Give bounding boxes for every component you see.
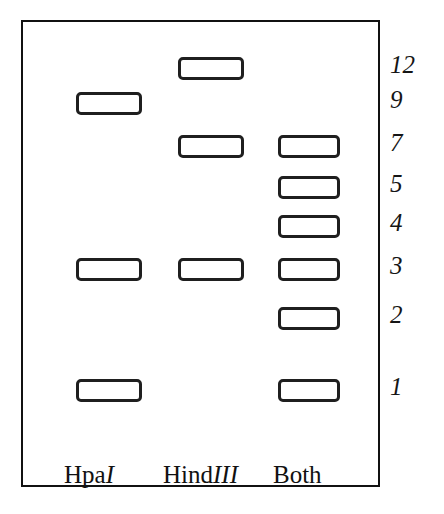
dna-band: [178, 258, 244, 281]
enzyme-name: Both: [273, 461, 322, 488]
enzyme-name: Hpa: [64, 461, 106, 488]
size-marker-label: 9: [390, 87, 434, 113]
enzyme-name: Hind: [163, 461, 213, 488]
dna-band: [76, 92, 142, 115]
dna-band: [278, 307, 340, 330]
size-marker-label: 1: [390, 374, 434, 400]
lane-label-both: Both: [273, 459, 322, 491]
dna-band: [278, 215, 340, 238]
size-marker-ladder: 129754321: [390, 20, 444, 487]
gel-box: HpaIHindIIIBoth: [21, 20, 380, 487]
size-marker-label: 2: [390, 302, 434, 328]
lane-label-hind: HindIII: [163, 459, 238, 491]
dna-band: [178, 135, 244, 158]
dna-band: [76, 258, 142, 281]
enzyme-numeral: I: [106, 461, 114, 488]
dna-band: [76, 379, 142, 402]
enzyme-numeral: III: [213, 461, 238, 488]
dna-band: [278, 258, 340, 281]
lane-label-row: HpaIHindIIIBoth: [23, 459, 382, 493]
size-marker-label: 4: [390, 210, 434, 236]
dna-band: [278, 379, 340, 402]
dna-band: [278, 135, 340, 158]
gel-electrophoresis-figure: HpaIHindIIIBoth 129754321: [0, 0, 444, 514]
size-marker-label: 5: [390, 171, 434, 197]
size-marker-label: 7: [390, 130, 434, 156]
size-marker-label: 3: [390, 253, 434, 279]
lane-label-hpa: HpaI: [64, 459, 114, 491]
dna-band: [178, 57, 244, 80]
dna-band: [278, 176, 340, 199]
size-marker-label: 12: [390, 52, 434, 78]
